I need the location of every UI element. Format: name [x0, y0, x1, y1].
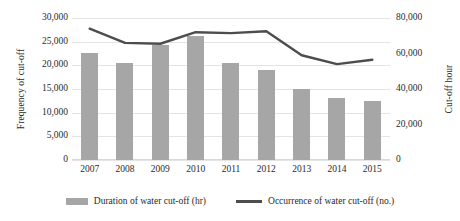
plot-area: [72, 18, 390, 160]
x-axis-label-2009: 2009: [143, 164, 178, 174]
x-axis-label-2014: 2014: [319, 164, 354, 174]
legend-label-occurrence: Occurrence of water cut-off (no.): [268, 196, 394, 206]
x-axis-label-2012: 2012: [249, 164, 284, 174]
y-axis-right-title: Cut-off hour: [444, 24, 454, 154]
line-path: [90, 29, 373, 65]
line-swatch-icon: [236, 200, 262, 203]
chart-container: Frequency of cut-off 30,00025,00020,0001…: [0, 0, 460, 221]
bar-swatch-icon: [66, 198, 88, 205]
gridline: [72, 160, 390, 161]
chart-legend: Duration of water cut-off (hr) Occurrenc…: [0, 191, 460, 211]
x-axis-label-2007: 2007: [72, 164, 107, 174]
y-axis-left-ticks: 30,00025,00020,00015,00010,0005,0000: [16, 0, 68, 221]
x-axis-label-2011: 2011: [213, 164, 248, 174]
y-axis-left-tick-label: 5,000: [16, 131, 68, 141]
y-axis-right-tick-label: 0: [396, 155, 452, 165]
x-axis-label-2015: 2015: [355, 164, 390, 174]
legend-label-duration: Duration of water cut-off (hr): [94, 196, 206, 206]
y-axis-left-tick-label: 15,000: [16, 84, 68, 94]
y-axis-left-tick-label: 20,000: [16, 60, 68, 70]
y-axis-left-tick-label: 0: [16, 155, 68, 165]
x-axis-label-2010: 2010: [178, 164, 213, 174]
x-axis-label-2013: 2013: [284, 164, 319, 174]
x-axis-labels: 200720082009201020112012201320142015: [72, 164, 390, 180]
y-axis-left-tick-label: 25,000: [16, 37, 68, 47]
y-axis-left-tick-label: 10,000: [16, 108, 68, 118]
legend-item-duration[interactable]: Duration of water cut-off (hr): [66, 196, 206, 206]
y-axis-right-tick-label: 80,000: [396, 13, 452, 23]
x-axis-label-2008: 2008: [107, 164, 142, 174]
line-series-occurrence-of-water-cut-off: [72, 18, 390, 160]
y-axis-left-tick-label: 30,000: [16, 13, 68, 23]
legend-item-occurrence[interactable]: Occurrence of water cut-off (no.): [236, 196, 394, 206]
